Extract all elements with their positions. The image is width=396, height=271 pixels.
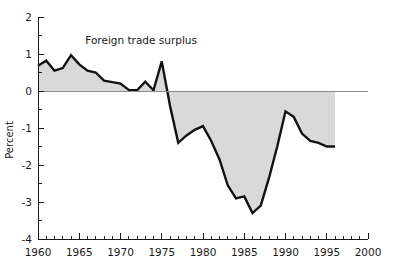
chart-annotations: Foreign trade surplus (85, 34, 197, 46)
y-tick-label: -2 (22, 159, 32, 171)
x-tick-label: 1980 (190, 246, 217, 258)
x-axis (38, 233, 368, 239)
y-axis-title: Percent (4, 121, 15, 159)
y-tick-label: 2 (25, 11, 32, 23)
x-tick-label: 1995 (313, 246, 340, 258)
x-axis-tick-labels: 196019651970197519801985199019952000 (25, 246, 382, 258)
y-tick-label: -1 (22, 122, 32, 134)
y-tick-label: -3 (22, 196, 32, 208)
x-tick-label: 1965 (66, 246, 93, 258)
x-tick-label: 1960 (25, 246, 52, 258)
series-annotation-label: Foreign trade surplus (85, 34, 197, 46)
chart-figure: 210-1-2-3-4 1960196519701975198019851990… (0, 0, 396, 271)
chart-plot-area (38, 55, 335, 213)
foreign-trade-surplus-chart: 210-1-2-3-4 1960196519701975198019851990… (0, 0, 396, 271)
y-tick-label: -4 (22, 233, 33, 245)
y-axis-tick-labels: 210-1-2-3-4 (22, 11, 33, 245)
y-tick-label: 1 (25, 48, 32, 60)
x-tick-label: 1970 (107, 246, 134, 258)
x-tick-label: 2000 (355, 246, 382, 258)
x-tick-label: 1990 (272, 246, 299, 258)
x-tick-label: 1985 (231, 246, 258, 258)
y-axis (38, 17, 44, 239)
x-tick-label: 1975 (148, 246, 175, 258)
y-tick-label: 0 (25, 85, 32, 97)
